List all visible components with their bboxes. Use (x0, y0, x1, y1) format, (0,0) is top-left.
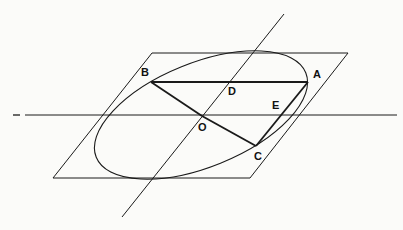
vertex-label-E: E (272, 99, 279, 111)
vertex-label-D: D (228, 85, 236, 97)
vertex-label-O: O (198, 121, 207, 133)
figure-page: B A D E O C (0, 0, 403, 230)
segment-BO (151, 82, 202, 116)
vertex-label-B: B (141, 66, 149, 78)
vertex-label-A: A (313, 68, 321, 80)
geometry-figure: B A D E O C (0, 0, 403, 230)
segment-OC (202, 116, 256, 146)
vertex-label-C: C (254, 150, 262, 162)
